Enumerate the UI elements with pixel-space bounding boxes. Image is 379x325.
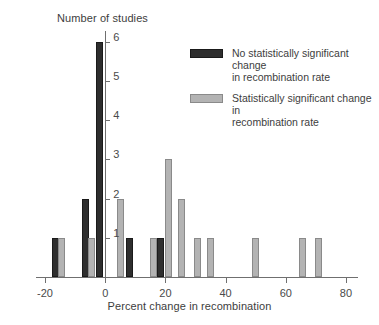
bar-dark-x-2-y6	[96, 42, 103, 277]
y-tick-1	[105, 238, 110, 239]
x-tick-80	[346, 278, 347, 283]
x-tick-label-0: 0	[102, 287, 108, 299]
legend-swatch-light	[190, 94, 223, 103]
x-tick-label-60: 60	[280, 287, 292, 299]
y-tick-6	[105, 42, 110, 43]
x-tick-label--20: -20	[37, 287, 53, 299]
x-tick-20	[165, 278, 166, 283]
bar-light-x30.5-y1	[194, 238, 201, 277]
x-axis-title: Percent change in recombination	[0, 300, 379, 312]
bar-dark-x18.5-y1	[157, 238, 164, 277]
legend-label-light: Statistically significant change in reco…	[232, 92, 375, 128]
bar-light-x-4.5-y1	[88, 238, 95, 277]
y-tick-4	[105, 120, 110, 121]
legend-label-light-line1: Statistically significant change in	[232, 92, 372, 116]
y-tick-label-5: 5	[113, 70, 119, 82]
bar-light-x50-y1	[252, 238, 259, 277]
legend-entry-significant-change: Statistically significant change in reco…	[190, 92, 375, 128]
y-tick-label-2: 2	[113, 188, 119, 200]
y-tick-label-4: 4	[113, 109, 119, 121]
x-axis-line	[36, 277, 358, 278]
y-tick-label-1: 1	[113, 227, 119, 239]
y-tick-label-3: 3	[113, 148, 119, 160]
legend-label-light-line2: recombination rate	[232, 116, 319, 128]
legend-entry-no-significant-change: No statistically significant change in r…	[190, 47, 375, 83]
y-tick-3	[105, 159, 110, 160]
x-tick-label-80: 80	[340, 287, 352, 299]
x-tick-label-20: 20	[159, 287, 171, 299]
y-tick-5	[105, 81, 110, 82]
y-tick-label-6: 6	[113, 31, 119, 43]
legend-label-dark-line1: No statistically significant change	[232, 47, 349, 71]
y-axis-title: Number of studies	[57, 12, 148, 24]
bar-dark-x8-y1	[126, 238, 133, 277]
legend-label-dark: No statistically significant change in r…	[232, 47, 375, 83]
y-tick-2	[105, 199, 110, 200]
x-tick--20	[45, 278, 46, 283]
bar-light-x21-y3	[165, 159, 172, 277]
bar-light-x25.5-y2	[178, 199, 185, 277]
legend-swatch-dark	[190, 49, 223, 58]
legend: No statistically significant change in r…	[190, 47, 375, 137]
x-tick-0	[105, 278, 106, 283]
bar-light-x35-y1	[207, 238, 214, 277]
histogram-figure: Number of studies -20020406080 123456 Pe…	[0, 0, 379, 325]
bar-light-x71-y1	[315, 238, 322, 277]
x-tick-label-40: 40	[219, 287, 231, 299]
legend-label-dark-line2: in recombination rate	[232, 71, 330, 83]
bar-light-x16-y1	[150, 238, 157, 277]
x-tick-60	[286, 278, 287, 283]
x-tick-40	[226, 278, 227, 283]
y-axis-line	[105, 31, 106, 278]
bar-light-x-14.5-y1	[58, 238, 65, 277]
bar-light-x65.5-y1	[299, 238, 306, 277]
